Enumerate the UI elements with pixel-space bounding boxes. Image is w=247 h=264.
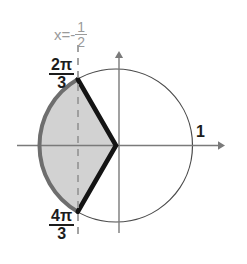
fraction-two-pi-over-three: 2π 3 — [49, 57, 74, 91]
label-angle-lower: 4π 3 — [49, 208, 74, 242]
unit-circle-figure — [0, 0, 247, 264]
fraction-one-half: 1 2 — [75, 20, 87, 49]
fraction-four-pi-over-three: 4π 3 — [49, 208, 74, 242]
label-angle-upper: 2π 3 — [49, 57, 74, 91]
fraction-denominator: 3 — [49, 224, 74, 242]
fraction-numerator: 2π — [49, 57, 74, 73]
label-x-equals-minus-one-half: x=- 1 2 — [54, 20, 87, 49]
fraction-denominator: 3 — [49, 73, 74, 91]
fraction-numerator: 4π — [49, 208, 74, 224]
fraction-denominator: 2 — [75, 34, 87, 49]
label-x-equals-minus-prefix: x=- — [54, 27, 75, 42]
fraction-numerator: 1 — [75, 20, 87, 34]
label-radius-one: 1 — [196, 124, 205, 140]
figure-background — [0, 0, 247, 264]
